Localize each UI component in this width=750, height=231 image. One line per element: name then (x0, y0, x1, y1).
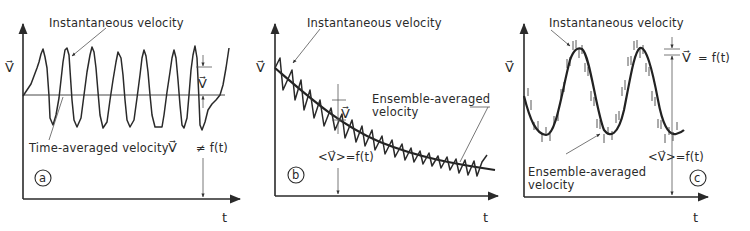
panel-c: V⃗ t Instantaneous velocity Ensemble-ave… (505, 16, 730, 225)
y-axis-label: V⃗ (256, 60, 265, 75)
ensemble-relation: <V⃗>=f(t) (318, 150, 374, 164)
time-averaged-pointer (49, 97, 63, 140)
fluctuation-relation: = f(t) (698, 51, 730, 65)
y-axis-label: V⃗ (5, 60, 14, 75)
not-function-of-time: ≠ f(t) (196, 141, 228, 155)
instantaneous-pointer (551, 30, 570, 46)
ensemble-label-line2: velocity (372, 105, 419, 119)
fluctuation-symbol: V⃗ (198, 76, 207, 91)
velocity-averaging-figure: V⃗ t Instantaneous velocity Time-average… (0, 0, 750, 231)
ensemble-label-line1: Ensemble-averaged (372, 92, 490, 106)
panel-badge: a (39, 171, 46, 185)
instantaneous-pointer (72, 28, 106, 56)
y-axis-label: V⃗ (505, 60, 514, 75)
ensemble-relation: <V⃗>=f(t) (648, 150, 704, 164)
mean-symbol: V⃗ (168, 140, 177, 155)
x-axis-label: t (222, 210, 227, 225)
instantaneous-label: Instantaneous velocity (307, 16, 442, 30)
panel-a: V⃗ t Instantaneous velocity Time-average… (5, 16, 240, 225)
ensemble-averaged-curve (524, 48, 684, 135)
x-axis-label: t (483, 210, 488, 225)
fluctuation-symbol: V⃗ (341, 106, 350, 121)
instantaneous-pointer (293, 29, 320, 63)
panel-badge: b (292, 168, 300, 182)
time-averaged-label: Time-averaged velocity (28, 141, 169, 155)
ensemble-label-line1: Ensemble-averaged (528, 165, 646, 179)
panel-badge: c (694, 171, 701, 185)
instantaneous-label: Instantaneous velocity (49, 16, 184, 30)
ensemble-pointer (460, 107, 488, 162)
x-axis-label: t (693, 210, 698, 225)
panel-b: V⃗ t Instantaneous velocity Ensemble-ave… (256, 16, 498, 225)
ensemble-label-line2: velocity (528, 178, 575, 192)
instantaneous-label: Instantaneous velocity (549, 16, 684, 30)
ensemble-pointer (566, 134, 600, 154)
fluctuation-symbol: V⃗ (682, 50, 691, 65)
